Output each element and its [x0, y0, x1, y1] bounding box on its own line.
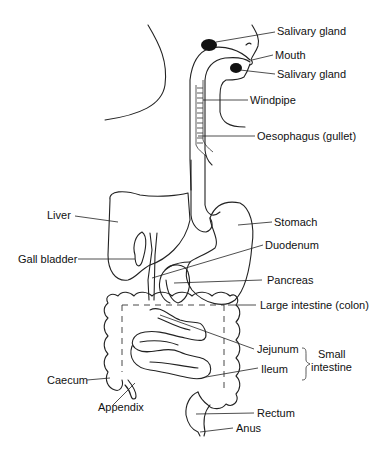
windpipe-rings: [197, 88, 203, 143]
label-liver: Liver: [47, 209, 71, 221]
label-salivary-gland-upper: Salivary gland: [277, 25, 346, 37]
nostril: [246, 43, 251, 45]
salivary-gland-upper: [201, 39, 217, 51]
head-outline: [105, 25, 166, 120]
label-duodenum: Duodenum: [265, 239, 319, 251]
label-small-intestine-line1: Small: [318, 348, 346, 360]
gall-bladder: [134, 232, 146, 266]
appendix: [125, 380, 136, 399]
label-caecum: Caecum: [47, 374, 88, 386]
bile-duct: [148, 233, 157, 300]
label-salivary-gland-lower: Salivary gland: [277, 68, 346, 80]
label-windpipe: Windpipe: [250, 94, 296, 106]
label-pancreas: Pancreas: [267, 274, 314, 286]
label-oesophagus: Oesophagus (gullet): [257, 130, 356, 142]
salivary-gland-lower: [230, 63, 242, 73]
liver: [108, 192, 190, 281]
label-small-intestine-line2: intestine: [311, 361, 352, 373]
colon-inner-dash: [122, 305, 224, 392]
label-jejunum: Jejunum: [257, 343, 299, 355]
lower-jaw: [220, 64, 250, 127]
oesophagus: [191, 160, 212, 232]
label-mouth: Mouth: [275, 49, 306, 61]
label-stomach: Stomach: [274, 216, 317, 228]
leader-lines: [75, 32, 275, 432]
small-intestine-brace: [302, 348, 310, 380]
label-anus: Anus: [236, 422, 262, 434]
large-intestine: [104, 292, 240, 408]
label-large-intestine: Large intestine (colon): [260, 299, 369, 311]
label-ileum: Ileum: [261, 363, 288, 375]
throat-inner: [205, 58, 250, 165]
digestive-system-diagram: Salivary gland Mouth Salivary gland Wind…: [0, 0, 392, 459]
stomach: [186, 202, 252, 304]
label-appendix: Appendix: [98, 401, 144, 413]
label-gall-bladder: Gall bladder: [18, 253, 78, 265]
label-rectum: Rectum: [257, 407, 295, 419]
